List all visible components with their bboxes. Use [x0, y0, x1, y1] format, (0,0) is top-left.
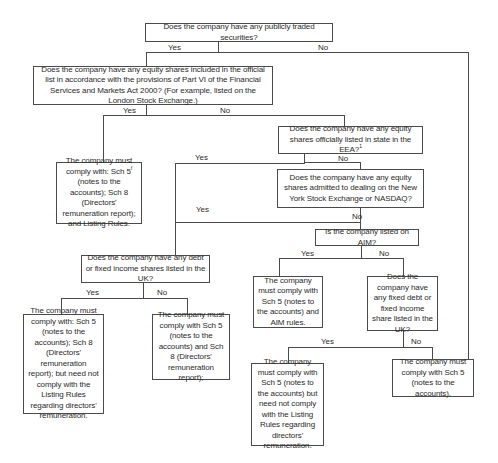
- connector: [175, 163, 305, 164]
- connector: [279, 258, 404, 259]
- connector: [175, 163, 176, 255]
- node-debt-yes-result: The company must comply with: Sch 5 (not…: [23, 314, 104, 414]
- node-text: Does the company have any debt or fixed …: [85, 253, 206, 285]
- branch-label-yes: Yes: [321, 337, 334, 346]
- node-text: The company must comply with Sch 5 (note…: [396, 357, 470, 399]
- branch-label-yes: Yes: [195, 153, 208, 162]
- node-text: The company must comply with: Sch 5 (not…: [27, 306, 100, 422]
- node-publicly-traded-question: Does the company have any publicly trade…: [145, 23, 333, 42]
- node-text-part: Does the company have any equity shares …: [290, 124, 412, 154]
- connector: [344, 115, 345, 126]
- branch-label-yes: Yes: [196, 205, 209, 214]
- node-text-part: The company must comply with: Sch 5: [66, 156, 132, 176]
- connector: [143, 283, 144, 298]
- branch-label-yes: Yes: [123, 106, 136, 115]
- node-fixed-debt-question: Does the company have any fixed debt or …: [367, 276, 438, 331]
- node-text: The company must comply with Sch 5 (note…: [257, 276, 319, 329]
- branch-label-no: No: [318, 43, 328, 52]
- branch-label-no: No: [220, 106, 230, 115]
- connector: [175, 222, 361, 223]
- connector: [288, 347, 433, 348]
- branch-label-no: No: [352, 212, 362, 221]
- connector: [279, 258, 280, 276]
- connector: [218, 42, 219, 52]
- branch-label-no: No: [411, 337, 421, 346]
- node-text: Does the company have any fixed debt or …: [371, 272, 434, 335]
- node-text-part: (notes to the accounts); Sch 8 (Director…: [62, 177, 135, 228]
- node-final-result: The company must comply with Sch 5 (note…: [392, 359, 474, 397]
- branch-label-yes: Yes: [301, 249, 314, 258]
- connector: [288, 347, 289, 363]
- node-text: Is the company listed on AIM?: [319, 227, 415, 248]
- node-text: Does the company have any equity shares …: [282, 124, 419, 156]
- node-aim-question: Is the company listed on AIM?: [315, 229, 419, 246]
- branch-label-yes: Yes: [168, 43, 181, 52]
- connector: [103, 115, 345, 116]
- node-debt-uk-question: Does the company have any debt or fixed …: [81, 255, 210, 283]
- node-listed-result: The company must comply with: Sch 5f (no…: [56, 162, 142, 224]
- branch-label-no: No: [338, 154, 348, 163]
- node-debt-no-result: The company must comply with Sch 5 (note…: [152, 314, 230, 380]
- node-eea-question: Does the company have any equity shares …: [278, 126, 423, 154]
- connector: [468, 52, 469, 359]
- node-nyse-question: Does the company have any equity shares …: [277, 169, 424, 208]
- node-text: Does the company have any equity shares …: [37, 65, 269, 107]
- connector: [360, 162, 361, 169]
- footnote-marker: f: [131, 165, 132, 171]
- connector: [403, 258, 404, 276]
- connector: [146, 52, 469, 53]
- node-official-list-question: Does the company have any equity shares …: [33, 66, 273, 105]
- footnote-marker: 1: [359, 144, 362, 150]
- connector: [103, 115, 104, 162]
- node-text: The company must comply with Sch 5 (note…: [156, 310, 226, 384]
- node-aim-yes-result: The company must comply with Sch 5 (note…: [253, 276, 323, 328]
- node-fixed-debt-yes-result: The company must comply with Sch 5 (note…: [251, 363, 324, 446]
- branch-label-no: No: [379, 249, 389, 258]
- node-text: The company must comply with Sch 5 (note…: [255, 357, 320, 452]
- connector: [187, 298, 188, 314]
- branch-label-no: No: [157, 288, 167, 297]
- branch-label-yes: Yes: [86, 288, 99, 297]
- node-text: The company must comply with: Sch 5f (no…: [60, 156, 138, 230]
- node-text: Does the company have any publicly trade…: [149, 22, 329, 43]
- connector: [432, 347, 433, 359]
- node-text: Does the company have any equity shares …: [281, 173, 420, 205]
- connector: [61, 298, 62, 314]
- connector: [146, 105, 147, 115]
- connector: [403, 331, 404, 347]
- connector: [361, 246, 362, 258]
- connector: [146, 52, 147, 66]
- connector: [61, 298, 188, 299]
- connector: [304, 162, 361, 163]
